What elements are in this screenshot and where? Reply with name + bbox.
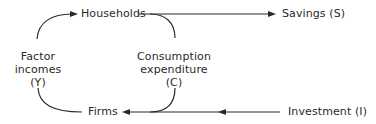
label-consumption-expenditure: Consumption expenditure (C) [134, 50, 214, 89]
label-line: Consumption [134, 50, 214, 63]
label-line: incomes [7, 63, 69, 76]
arrow-firms-to-factor-incomes [38, 88, 82, 112]
label-line: (Y) [7, 76, 69, 89]
node-households: Households [81, 7, 146, 20]
arrowhead-icon [218, 109, 226, 115]
arrow-consumption-to-firms [150, 88, 175, 112]
label-line: (C) [134, 76, 214, 89]
label-factor-incomes: Factor incomes (Y) [7, 50, 69, 89]
arrow-households-to-consumption [150, 14, 175, 38]
arrowhead-icon [122, 109, 130, 115]
label-line: expenditure [134, 63, 214, 76]
arrowhead-icon [70, 11, 78, 17]
label-line: Factor [7, 50, 69, 63]
arrow-factor-incomes-to-households [37, 14, 72, 39]
arrowhead-icon [268, 11, 276, 17]
node-savings: Savings (S) [282, 7, 345, 20]
node-firms: Firms [88, 105, 118, 118]
node-investment: Investment (I) [288, 105, 367, 118]
